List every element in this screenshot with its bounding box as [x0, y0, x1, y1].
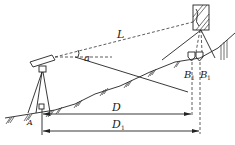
- label-b1-prime-sub: 1: [207, 74, 211, 81]
- label-horizontal-distance-1: D: [111, 118, 121, 131]
- label-slope-distance: L: [116, 28, 124, 41]
- label-horizontal-distance-1-sub: 1: [121, 124, 125, 131]
- target-plumb: [201, 30, 202, 52]
- arrowhead: [184, 112, 191, 116]
- arrowhead: [43, 112, 50, 116]
- arrowhead: [43, 129, 50, 133]
- prism-pair: [188, 52, 203, 61]
- theodolite: [28, 55, 55, 113]
- theodolite-base: [39, 66, 46, 72]
- surveying-diagram: L a D D 1 A B 1 B 1: [0, 0, 235, 145]
- angle-arc: [78, 50, 79, 57]
- label-station-a: A: [26, 118, 33, 127]
- label-horizontal-distance: D: [111, 101, 121, 114]
- theodolite-body: [30, 55, 55, 67]
- tripod-leg: [28, 72, 42, 113]
- sight-line-to-prism: [75, 57, 188, 92]
- diagram-canvas: L a D D 1 A B 1 B 1: [0, 0, 235, 145]
- label-b1-sub: 1: [191, 74, 195, 81]
- arrowhead: [192, 129, 199, 133]
- label-vertical-angle: a: [84, 52, 90, 63]
- ground-marker: [39, 104, 44, 109]
- target-curve: [196, 9, 199, 26]
